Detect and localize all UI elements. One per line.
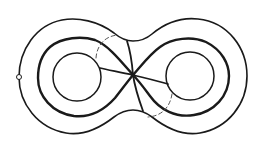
left-hole-circle <box>53 53 101 101</box>
right-hole-circle <box>166 52 214 100</box>
center-node <box>131 73 135 77</box>
left-thick-loop <box>38 38 133 116</box>
basepoint-marker <box>17 75 22 80</box>
surface-diagram <box>0 0 265 151</box>
